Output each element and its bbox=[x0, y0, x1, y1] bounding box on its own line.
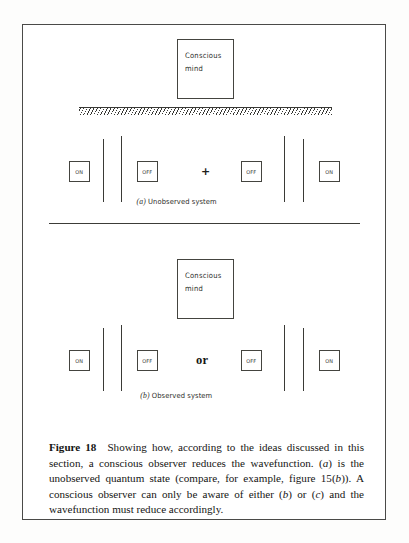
subcaption-b: (b) Observed system bbox=[140, 391, 212, 400]
conscious-mind-box-b: Conscious mind bbox=[177, 259, 234, 319]
operator-plus-a: + bbox=[201, 166, 210, 177]
ket-bar-b3 bbox=[284, 325, 285, 391]
ket-bar-b1 bbox=[103, 328, 104, 391]
state-label: ON bbox=[76, 358, 84, 364]
state-label: ON bbox=[326, 169, 334, 175]
hatched-barrier bbox=[79, 107, 332, 116]
caption-text-4: ) or ( bbox=[288, 488, 315, 500]
state-box-off-left-a: OFF bbox=[137, 161, 158, 182]
conscious-mind-line2-b: mind bbox=[185, 282, 229, 295]
state-box-on-left-b: ON bbox=[69, 350, 90, 371]
panel-divider-rule bbox=[49, 223, 360, 224]
state-label: OFF bbox=[142, 169, 152, 175]
state-box-off-left-b: OFF bbox=[137, 350, 158, 371]
state-label: ON bbox=[326, 358, 334, 364]
state-label: OFF bbox=[142, 358, 152, 364]
ket-bar-a4 bbox=[303, 139, 304, 202]
ket-bar-a2 bbox=[121, 136, 122, 202]
state-box-on-right-b: ON bbox=[319, 350, 340, 371]
state-box-on-right-a: ON bbox=[319, 161, 340, 182]
state-label: OFF bbox=[246, 169, 256, 175]
state-box-on-left-a: ON bbox=[69, 161, 90, 182]
state-box-off-right-a: OFF bbox=[241, 161, 262, 182]
conscious-mind-box-a: Conscious mind bbox=[177, 39, 234, 99]
state-box-off-right-b: OFF bbox=[241, 350, 262, 371]
ket-bar-b4 bbox=[303, 328, 304, 391]
ket-bar-b2 bbox=[121, 325, 122, 391]
conscious-mind-line1-a: Conscious bbox=[185, 49, 229, 62]
figure-caption: Figure 18 Showing how, according to the … bbox=[49, 440, 364, 518]
ket-bar-a3 bbox=[284, 136, 285, 202]
operator-or-b: or bbox=[196, 354, 208, 367]
conscious-mind-line2-a: mind bbox=[185, 62, 229, 75]
subcaption-b-text: Observed system bbox=[150, 391, 213, 400]
subcaption-a-text: Unobserved system bbox=[146, 197, 217, 206]
figure-frame: Conscious mind ON OFF + OFF ON bbox=[22, 24, 386, 520]
state-label: OFF bbox=[246, 358, 256, 364]
state-label: ON bbox=[76, 169, 84, 175]
conscious-mind-line1-b: Conscious bbox=[185, 269, 229, 282]
ket-bar-a1 bbox=[103, 139, 104, 202]
barrier-hatch bbox=[79, 108, 332, 115]
subcaption-a: (a) Unobserved system bbox=[137, 197, 217, 206]
figure-number-label: Figure 18 bbox=[49, 441, 107, 453]
